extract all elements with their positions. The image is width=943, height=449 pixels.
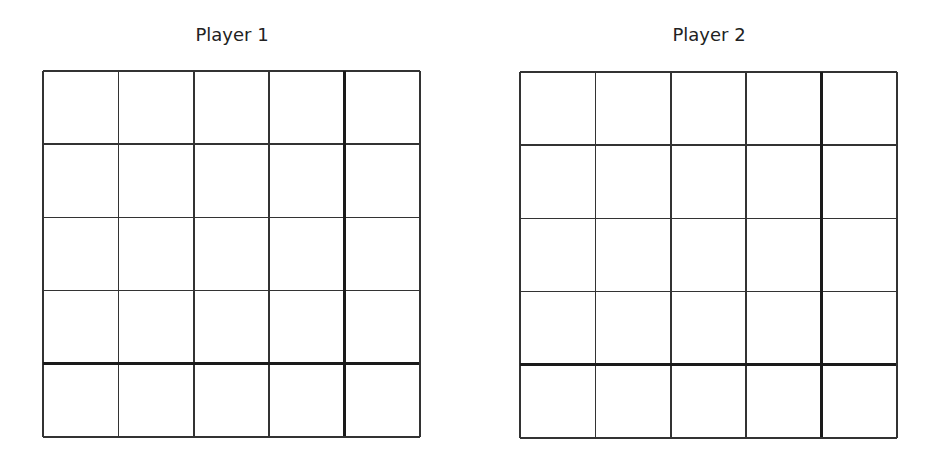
board-cell[interactable] <box>822 72 897 145</box>
grid-line-horizontal <box>520 218 897 220</box>
board-cell[interactable] <box>194 291 269 364</box>
board-cell[interactable] <box>43 71 118 144</box>
grid-line-horizontal <box>520 291 897 293</box>
board-cell[interactable] <box>118 71 193 144</box>
board-cell[interactable] <box>746 145 821 218</box>
grid-line-vertical <box>519 72 521 438</box>
board-cell[interactable] <box>194 71 269 144</box>
board-cell[interactable] <box>43 144 118 217</box>
grid-line-vertical <box>670 72 672 438</box>
board-cell[interactable] <box>671 145 746 218</box>
board-cell[interactable] <box>269 364 344 437</box>
board-cell[interactable] <box>345 144 420 217</box>
board-cell[interactable] <box>520 218 595 291</box>
grid-line-horizontal <box>520 363 897 366</box>
grid-line-horizontal <box>520 71 897 73</box>
grid-line-horizontal <box>43 217 420 219</box>
board-cell[interactable] <box>746 72 821 145</box>
board-cell[interactable] <box>43 217 118 290</box>
board-cell[interactable] <box>269 217 344 290</box>
board-cell[interactable] <box>345 364 420 437</box>
board-cell[interactable] <box>194 144 269 217</box>
board-cell[interactable] <box>269 71 344 144</box>
player-2-board <box>520 72 897 438</box>
board-cell[interactable] <box>269 144 344 217</box>
board-cell[interactable] <box>822 292 897 365</box>
board-cell[interactable] <box>345 71 420 144</box>
grid-line-horizontal <box>43 362 420 365</box>
board-cell[interactable] <box>345 217 420 290</box>
board-cell[interactable] <box>671 72 746 145</box>
grid-line-vertical <box>745 72 747 438</box>
grid-line-vertical <box>118 71 120 437</box>
board-cell[interactable] <box>822 218 897 291</box>
grid-line-horizontal <box>520 437 897 439</box>
player-1-title: Player 1 <box>132 24 332 45</box>
grid-line-horizontal <box>43 70 420 72</box>
board-cell[interactable] <box>43 364 118 437</box>
grid-line-vertical <box>42 71 44 437</box>
board-cell[interactable] <box>671 218 746 291</box>
board-cell[interactable] <box>746 292 821 365</box>
board-cell[interactable] <box>520 292 595 365</box>
board-cell[interactable] <box>822 145 897 218</box>
player-2-title: Player 2 <box>609 24 809 45</box>
grid-line-vertical <box>343 71 346 437</box>
board-cell[interactable] <box>43 291 118 364</box>
grid-line-vertical <box>595 72 597 438</box>
grid-line-vertical <box>419 71 421 437</box>
board-cell[interactable] <box>118 144 193 217</box>
grid-line-horizontal <box>520 144 897 146</box>
board-cell[interactable] <box>194 217 269 290</box>
player-1-board <box>43 71 420 437</box>
grid-line-vertical <box>820 72 823 438</box>
board-cell[interactable] <box>520 365 595 438</box>
board-cell[interactable] <box>520 145 595 218</box>
board-cell[interactable] <box>520 72 595 145</box>
grid-line-vertical <box>193 71 195 437</box>
board-cell[interactable] <box>595 145 670 218</box>
board-cell[interactable] <box>671 365 746 438</box>
board-cell[interactable] <box>345 291 420 364</box>
grid-line-horizontal <box>43 143 420 145</box>
board-cell[interactable] <box>595 72 670 145</box>
grid-line-horizontal <box>43 436 420 438</box>
grid-line-vertical <box>268 71 270 437</box>
board-cell[interactable] <box>746 218 821 291</box>
grid-line-vertical <box>896 72 898 438</box>
board-cell[interactable] <box>269 291 344 364</box>
board-cell[interactable] <box>118 364 193 437</box>
board-cell[interactable] <box>118 291 193 364</box>
board-cell[interactable] <box>194 364 269 437</box>
board-cell[interactable] <box>822 365 897 438</box>
board-cell[interactable] <box>746 365 821 438</box>
board-cell[interactable] <box>595 218 670 291</box>
board-cell[interactable] <box>595 292 670 365</box>
board-cell[interactable] <box>671 292 746 365</box>
board-cell[interactable] <box>118 217 193 290</box>
board-cell[interactable] <box>595 365 670 438</box>
grid-line-horizontal <box>43 290 420 292</box>
